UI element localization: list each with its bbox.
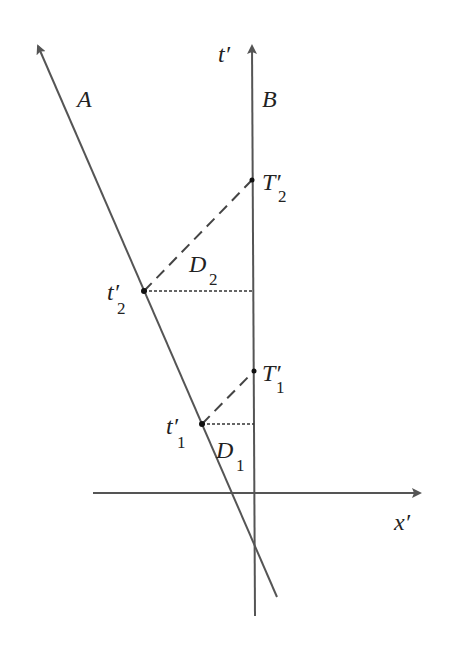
event-sub-t2: 2: [117, 299, 126, 318]
distance-sub-d2: 2: [209, 270, 218, 289]
spacetime-diagram: t′ x′ A B T′ 2 D 2 t′ 2 T′ 1 t′ 1 D 1: [0, 0, 466, 659]
event-point-T1: [252, 369, 257, 374]
t-axis-worldline-b: [252, 46, 255, 616]
worldline-a-label: A: [75, 86, 92, 112]
event-point-T2: [250, 178, 255, 183]
distance-label-d1: D: [215, 437, 233, 463]
signal-t1-to-T1: [202, 371, 254, 424]
event-point-t2: [141, 288, 147, 294]
worldline-a: [38, 46, 277, 597]
diagram-canvas: t′ x′ A B T′ 2 D 2 t′ 2 T′ 1 t′ 1 D 1: [0, 0, 466, 659]
x-axis-label: x′: [393, 509, 411, 535]
event-sub-T2: 2: [278, 187, 287, 206]
event-point-t1: [199, 421, 205, 427]
event-sub-T1: 1: [276, 378, 285, 397]
distance-label-d2: D: [188, 251, 206, 277]
event-sub-t1: 1: [177, 433, 186, 452]
worldline-b-label: B: [262, 86, 277, 112]
distance-sub-d1: 1: [236, 456, 245, 475]
t-axis-label: t′: [218, 41, 231, 67]
